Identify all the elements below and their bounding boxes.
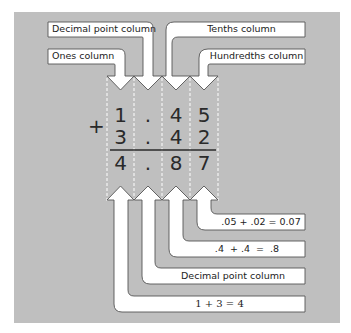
label-tenths-column: Tenths column — [178, 22, 305, 36]
row2-decimal-point: . — [134, 126, 162, 148]
row2-tenths-digit: 4 — [162, 126, 190, 148]
plus-operator: + — [88, 115, 105, 137]
label-ones-sum: 1 + 3 = 4 — [134, 297, 305, 311]
label-hundredths-column: Hundredths column — [208, 49, 305, 63]
result-ones-digit: 4 — [107, 152, 134, 174]
row1-tenths-digit: 4 — [162, 104, 190, 126]
row2-ones-digit: 3 — [107, 126, 134, 148]
row2-hundredths-digit: 2 — [190, 126, 218, 148]
label-hundredths-sum: .05 + .02 = 0.07 — [217, 215, 305, 229]
row1-decimal-point: . — [134, 104, 162, 126]
label-decimal-point-column-top: Decimal point column — [52, 22, 156, 36]
result-hundredths-digit: 7 — [190, 152, 218, 174]
label-ones-column: Ones column — [52, 49, 114, 63]
row1-hundredths-digit: 5 — [190, 104, 218, 126]
result-decimal-point: . — [134, 152, 162, 174]
row1-ones-digit: 1 — [107, 104, 134, 126]
label-decimal-point-column-bottom: Decimal point column — [161, 269, 305, 283]
result-tenths-digit: 8 — [162, 152, 190, 174]
label-tenths-sum: .4 + .4 = .8 — [189, 242, 305, 256]
